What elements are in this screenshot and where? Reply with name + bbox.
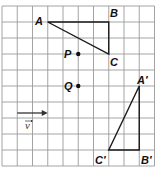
- arrowhead-icon: [42, 110, 48, 116]
- vector-label: v: [25, 119, 33, 131]
- label-b-prime: B′: [141, 154, 153, 166]
- label-q: Q: [64, 80, 73, 92]
- label-b: B: [110, 7, 118, 19]
- label-a: A: [34, 15, 43, 27]
- point-q: [76, 84, 80, 88]
- label-p: P: [64, 48, 72, 60]
- label-c-prime: C′: [95, 154, 107, 166]
- label-a-prime: A′: [136, 74, 149, 86]
- label-c: C: [110, 56, 119, 68]
- transformation-diagram: A B C P Q A′ B′ C′ v: [0, 0, 165, 173]
- point-p: [76, 52, 80, 56]
